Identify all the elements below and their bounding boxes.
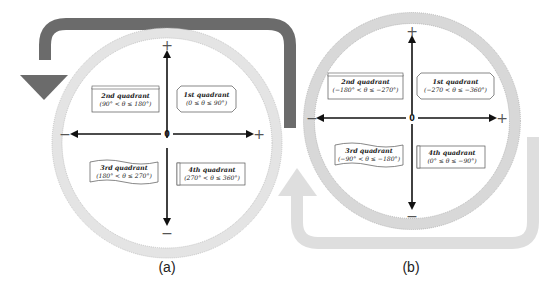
quadrant-4-label: 4th quadrant (0° ≤ θ ≤ −90°) (417, 146, 485, 168)
svg-text:(270° < θ ≤ 360°): (270° < θ ≤ 360°) (184, 174, 240, 181)
axis-sign-top: + (161, 37, 173, 53)
origin-label: 0 (164, 130, 170, 139)
svg-text:4th quadrant: 4th quadrant (428, 149, 475, 157)
quadrant-diagram: 0 + − − + 2nd quadrant (90° < θ ≤ 180°) … (0, 0, 549, 291)
svg-text:(0° ≤ θ ≤ −90°): (0° ≤ θ ≤ −90°) (427, 157, 477, 164)
quadrant-1-label: 1st quadrant (−270 < θ ≤ −360°) (417, 73, 494, 99)
svg-text:1st quadrant: 1st quadrant (183, 91, 229, 99)
panel-b: 0 + − − + 2nd quadrant (−180° < θ ≤ −270… (278, 13, 533, 276)
quadrant-2-label: 2nd quadrant (−180° < θ ≤ −270°) (328, 73, 403, 99)
quadrant-3-label: 3rd quadrant (180° < θ ≤ 270°) (90, 160, 158, 184)
svg-text:(−270 < θ ≤ −360°): (−270 < θ ≤ −360°) (424, 86, 488, 93)
svg-text:(0 ≤ θ ≤ 90°): (0 ≤ θ ≤ 90°) (186, 99, 228, 106)
svg-text:(−90° < θ ≤ −180°): (−90° < θ ≤ −180°) (338, 155, 401, 162)
svg-text:(90° < θ ≤ 180°): (90° < θ ≤ 180°) (100, 100, 152, 107)
origin-label: 0 (409, 114, 415, 123)
axis-sign-left: − (306, 110, 318, 126)
quadrant-4-label: 4th quadrant (270° < θ ≤ 360°) (177, 163, 245, 185)
caption-b: (b) (402, 259, 419, 275)
quadrant-1-label: 1st quadrant (0 ≤ θ ≤ 90°) (177, 86, 236, 112)
quadrant-2-label: 2nd quadrant (90° < θ ≤ 180°) (92, 86, 159, 112)
axis-sign-bottom: − (161, 225, 173, 241)
quadrant-3-label: 3rd quadrant (−90° < θ ≤ −180°) (335, 143, 403, 167)
axis-sign-top: + (406, 23, 418, 39)
svg-text:2nd quadrant: 2nd quadrant (100, 92, 150, 100)
axis-sign-bottom: − (406, 208, 418, 224)
axis-sign-left: − (59, 126, 71, 142)
panel-a: 0 + − − + 2nd quadrant (90° < θ ≤ 180°) … (20, 24, 290, 275)
svg-text:(−180° < θ ≤ −270°): (−180° < θ ≤ −270°) (333, 86, 400, 93)
svg-text:4th quadrant: 4th quadrant (188, 166, 235, 174)
caption-a: (a) (158, 259, 175, 275)
svg-text:3rd quadrant: 3rd quadrant (345, 147, 392, 155)
axis-sign-right: + (253, 126, 265, 142)
axis-sign-right: + (496, 110, 508, 126)
svg-text:2nd quadrant: 2nd quadrant (340, 78, 390, 86)
svg-text:(180° < θ ≤ 270°): (180° < θ ≤ 270°) (96, 172, 152, 179)
svg-text:1st quadrant: 1st quadrant (432, 78, 478, 86)
svg-text:3rd quadrant: 3rd quadrant (100, 164, 147, 172)
